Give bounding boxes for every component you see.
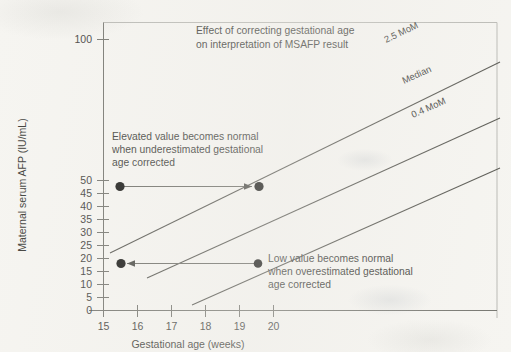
point-elevated-end bbox=[254, 182, 263, 191]
y-tick-35: 35 bbox=[80, 213, 92, 225]
y-tick-40: 40 bbox=[80, 200, 92, 212]
chart-title: Effect of correcting gestational age on … bbox=[196, 25, 355, 50]
elevated-note-line-2: when underestimated gestational bbox=[111, 144, 263, 155]
msafp-gestational-age-chart: 0 5 10 15 20 25 30 35 40 45 50 100 15 16… bbox=[0, 0, 511, 352]
y-axis-tick-labels: 0 5 10 15 20 25 30 35 40 45 50 100 bbox=[74, 33, 92, 316]
x-tick-17: 17 bbox=[166, 320, 178, 332]
elevated-value-annotation: Elevated value becomes normal when under… bbox=[111, 131, 263, 168]
y-tick-50: 50 bbox=[80, 174, 92, 186]
elevated-note-line-3: age corrected bbox=[112, 157, 175, 168]
point-low-start bbox=[254, 259, 263, 268]
y-tick-5: 5 bbox=[86, 291, 92, 303]
point-low-end bbox=[116, 259, 125, 268]
y-tick-25: 25 bbox=[80, 239, 92, 251]
low-note-line-2: when overestimated gestational bbox=[267, 266, 413, 277]
reference-line-labels: 2.5 MoM Median 0.4 MoM bbox=[382, 19, 447, 120]
x-tick-18: 18 bbox=[200, 320, 212, 332]
elevated-value-arrow bbox=[115, 182, 263, 191]
x-tick-16: 16 bbox=[132, 320, 144, 332]
arrowhead-left bbox=[127, 260, 135, 267]
y-tick-15: 15 bbox=[80, 265, 92, 277]
point-elevated-start bbox=[115, 182, 124, 191]
x-tick-19: 19 bbox=[234, 320, 246, 332]
y-axis-title: Maternal serum AFP (IU/mL) bbox=[16, 118, 28, 251]
elevated-note-line-1: Elevated value becomes normal bbox=[112, 131, 259, 142]
y-tick-100: 100 bbox=[74, 33, 92, 45]
chart-canvas: 0 5 10 15 20 25 30 35 40 45 50 100 15 16… bbox=[0, 0, 511, 352]
label-median: Median bbox=[400, 63, 433, 86]
y-tick-10: 10 bbox=[80, 278, 92, 290]
low-value-arrow bbox=[116, 259, 262, 268]
y-tick-20: 20 bbox=[80, 252, 92, 264]
x-tick-15: 15 bbox=[98, 320, 110, 332]
low-value-annotation: Low value becomes normal when overestima… bbox=[267, 253, 413, 290]
y-tick-45: 45 bbox=[80, 187, 92, 199]
low-note-line-1: Low value becomes normal bbox=[268, 253, 393, 264]
y-tick-0: 0 bbox=[86, 304, 92, 316]
low-note-line-3: age corrected bbox=[268, 279, 331, 290]
x-tick-20: 20 bbox=[268, 320, 280, 332]
x-axis-title: Gestational age (weeks) bbox=[131, 338, 244, 350]
y-tick-30: 30 bbox=[80, 226, 92, 238]
chart-title-line-1: Effect of correcting gestational age bbox=[196, 25, 355, 36]
x-axis-tick-labels: 15 16 17 18 19 20 bbox=[98, 320, 280, 332]
label-0-4-mom: 0.4 MoM bbox=[409, 95, 447, 120]
chart-title-line-2: on interpretation of MSAFP result bbox=[196, 39, 348, 50]
